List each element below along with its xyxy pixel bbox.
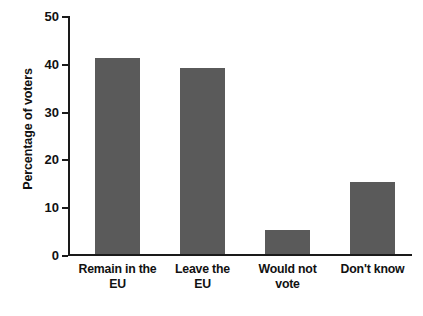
y-tick-label: 40 <box>45 56 59 71</box>
y-tick-mark <box>62 16 68 18</box>
y-tick-label: 50 <box>45 9 59 24</box>
y-tick-label: 30 <box>45 104 59 119</box>
x-category-label-line: vote <box>238 277 338 292</box>
y-tick-mark <box>62 112 68 114</box>
y-tick-label: 10 <box>45 200 59 215</box>
y-tick-mark <box>62 207 68 209</box>
y-tick-label: 20 <box>45 152 59 167</box>
bar-3 <box>350 182 395 254</box>
x-category-label-3: Don't know <box>323 262 423 277</box>
y-tick-mark <box>62 64 68 66</box>
x-category-label-line: Don't know <box>323 262 423 277</box>
chart-figure: Percentage of voters 01020304050 Remain … <box>0 0 423 316</box>
y-tick-mark <box>62 255 68 257</box>
plot-area: 01020304050 <box>68 16 412 255</box>
y-tick-mark <box>62 159 68 161</box>
bar-1 <box>180 68 225 254</box>
x-axis-line <box>68 254 412 256</box>
y-tick-label: 0 <box>52 248 59 263</box>
bar-0 <box>95 58 140 254</box>
bar-2 <box>265 230 310 254</box>
y-axis-title: Percentage of voters <box>21 29 35 229</box>
y-axis-line <box>68 16 70 255</box>
